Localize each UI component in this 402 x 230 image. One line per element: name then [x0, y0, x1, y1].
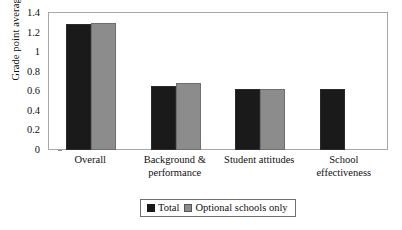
y-tick-label: 1.2: [12, 28, 40, 38]
y-tick-label: 0.2: [12, 125, 40, 135]
legend-swatch-optional: [184, 204, 192, 212]
bar-total: [235, 89, 260, 150]
legend-label: Total: [158, 202, 179, 214]
bar-optional: [260, 89, 285, 150]
bar-chart: Grade point average 00.20.40.60.811.21.4…: [0, 0, 402, 230]
y-tick-label: 0: [12, 145, 40, 155]
y-tick-label: 0.8: [12, 67, 40, 77]
plot-area: [49, 13, 387, 150]
legend-item: Optional schools only: [184, 202, 287, 214]
x-category-label: Student attitudes: [217, 154, 302, 167]
x-category-label: Overall: [48, 154, 133, 167]
y-tick-mark: [58, 150, 62, 151]
bar-optional: [176, 83, 201, 150]
bar-total: [151, 86, 176, 150]
x-axis-category-labels: OverallBackground & performanceStudent a…: [48, 154, 388, 188]
y-tick-label: 0.4: [12, 106, 40, 116]
legend-swatch-total: [147, 204, 155, 212]
y-tick-label: 1: [12, 47, 40, 57]
y-tick-label: 0.6: [12, 86, 40, 96]
legend: TotalOptional schools only: [140, 199, 296, 217]
y-axis-ticks: 00.20.40.60.811.21.4: [14, 12, 44, 150]
x-category-label: Background & performance: [133, 154, 218, 179]
legend-item: Total: [147, 202, 179, 214]
legend-label: Optional schools only: [195, 202, 287, 214]
x-category-label: School effectiveness: [302, 154, 387, 179]
bar-total: [66, 24, 91, 150]
bar-total: [320, 89, 345, 150]
y-tick-label: 1.4: [12, 8, 40, 18]
bar-optional: [91, 23, 116, 150]
